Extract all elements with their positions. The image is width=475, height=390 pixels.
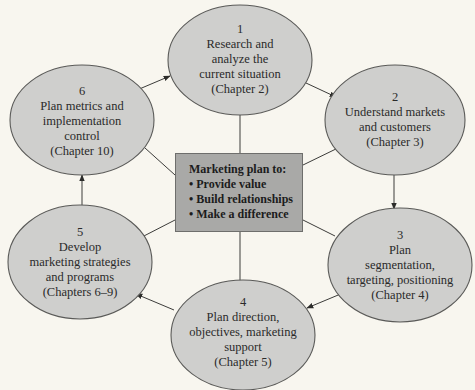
center-bullet-make-a-difference: • Make a difference (189, 207, 302, 222)
step-6-line-2: implementation (10, 114, 154, 129)
step-6-line-1: Plan metrics and (10, 99, 154, 114)
marketing-plan-center-box: Marketing plan to: • Provide value • Bui… (175, 153, 303, 232)
center-bullet-build-relationships: • Build relationships (189, 192, 302, 207)
step-3-chapter: (Chapter 4) (328, 288, 472, 303)
step-5-number: 5 (8, 225, 152, 240)
step-2-chapter: (Chapter 3) (325, 135, 465, 150)
center-bullet-provide-value: • Provide value (189, 177, 302, 192)
step-4-chapter: (Chapter 5) (171, 355, 315, 370)
step-2-line-2: and customers (325, 120, 465, 135)
step-2-label: 2 Understand markets and customers (Chap… (325, 90, 465, 150)
step-5-chapter: (Chapters 6–9) (8, 285, 152, 300)
step-6-label: 6 Plan metrics and implementation contro… (10, 84, 154, 159)
step-3-line-1: Plan (328, 243, 472, 258)
step-5-line-2: marketing strategies (8, 255, 152, 270)
step-5-line-3: and programs (8, 270, 152, 285)
center-title: Marketing plan to: (189, 162, 302, 177)
step-2-number: 2 (325, 90, 465, 105)
step-3-line-2: segmentation, (328, 258, 472, 273)
step-4-line-1: Plan direction, (171, 310, 315, 325)
step-1-line-3: current situation (168, 67, 312, 82)
step-3-number: 3 (328, 228, 472, 243)
step-6-line-3: control (10, 129, 154, 144)
step-4-label: 4 Plan direction, objectives, marketing … (171, 295, 315, 370)
step-1-label: 1 Research and analyze the current situa… (168, 22, 312, 97)
step-5-line-1: Develop (8, 240, 152, 255)
step-1-line-2: analyze the (168, 52, 312, 67)
step-1-line-1: Research and (168, 37, 312, 52)
step-4-number: 4 (171, 295, 315, 310)
step-5-label: 5 Develop marketing strategies and progr… (8, 225, 152, 300)
step-6-chapter: (Chapter 10) (10, 144, 154, 159)
step-4-line-3: support (171, 340, 315, 355)
step-6-number: 6 (10, 84, 154, 99)
step-2-line-1: Understand markets (325, 105, 465, 120)
step-1-number: 1 (168, 22, 312, 37)
step-4-line-2: objectives, marketing (171, 325, 315, 340)
step-3-line-3: targeting, positioning (328, 273, 472, 288)
step-3-label: 3 Plan segmentation, targeting, position… (328, 228, 472, 303)
step-1-chapter: (Chapter 2) (168, 82, 312, 97)
